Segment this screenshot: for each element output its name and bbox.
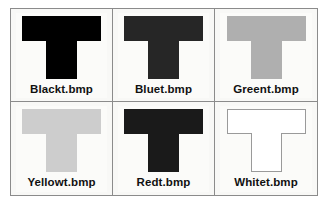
t-crossbar xyxy=(227,109,306,134)
t-shape-blackt xyxy=(22,16,101,79)
panel-greent: Greent.bmp xyxy=(215,9,317,102)
t-shape-redt xyxy=(124,109,203,172)
t-crossbar xyxy=(22,16,101,41)
panel-blackt: Blackt.bmp xyxy=(11,9,113,102)
panel-grid: Blackt.bmp Bluet.bmp xyxy=(10,8,318,196)
t-shape-yellowt xyxy=(22,109,101,172)
panel-inner: Yellowt.bmp xyxy=(16,106,107,192)
t-stem xyxy=(148,40,179,79)
t-stem xyxy=(148,133,179,172)
image-grid-figure: Blackt.bmp Bluet.bmp xyxy=(0,0,330,208)
panel-inner: Greent.bmp xyxy=(220,13,312,98)
t-crossbar xyxy=(124,109,203,134)
panel-label: Blackt.bmp xyxy=(30,84,93,96)
panel-inner: Blackt.bmp xyxy=(16,13,107,98)
panel-bluet: Bluet.bmp xyxy=(113,9,215,102)
panel-inner: Bluet.bmp xyxy=(118,13,209,98)
panel-whitet: Whitet.bmp xyxy=(215,102,317,195)
t-stem xyxy=(251,40,282,79)
panel-label: Whitet.bmp xyxy=(234,177,298,189)
t-crossbar xyxy=(124,16,203,41)
panel-label: Bluet.bmp xyxy=(135,84,192,96)
panel-label: Greent.bmp xyxy=(233,84,299,96)
t-crossbar xyxy=(22,109,101,134)
panel-inner: Whitet.bmp xyxy=(220,106,312,192)
t-seam-right xyxy=(282,133,306,134)
t-shape-whitet xyxy=(227,109,306,172)
panel-label: Redt.bmp xyxy=(137,177,191,189)
t-shape-bluet xyxy=(124,16,203,79)
t-stem xyxy=(46,133,77,172)
panel-redt: Redt.bmp xyxy=(113,102,215,195)
t-shape-greent xyxy=(227,16,306,79)
panel-label: Yellowt.bmp xyxy=(27,177,95,189)
t-crossbar xyxy=(227,16,306,41)
panel-yellowt: Yellowt.bmp xyxy=(11,102,113,195)
panel-inner: Redt.bmp xyxy=(118,106,209,192)
t-seam-left xyxy=(227,133,251,134)
t-stem xyxy=(46,40,77,79)
t-stem xyxy=(251,133,282,172)
